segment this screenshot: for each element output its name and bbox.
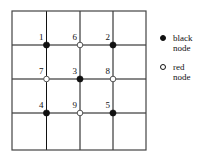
black-node-marker [77,76,83,82]
legend: black node red node [160,33,207,91]
legend-black-node-label-line1: black [173,33,207,43]
legend-item-red-node: red node [160,62,207,82]
node-label-7: 7 [39,67,44,76]
node-label-8: 8 [106,67,111,76]
node-label-1: 1 [39,33,44,42]
node-label-4: 4 [39,101,44,110]
node-label-9: 9 [73,101,78,110]
red-node-marker [77,110,83,116]
red-node-marker [77,42,83,48]
black-node-marker [43,110,49,116]
black-node-marker [110,110,116,116]
legend-item-black-node: black node [160,33,207,53]
black-node-marker [110,42,116,48]
red-node-marker [44,76,50,82]
black-node-marker [43,42,49,48]
red-node-marker [110,76,116,82]
red-node-marker-icon [160,64,166,70]
legend-red-node-label-line1: red [173,62,207,72]
node-label-3: 3 [73,67,78,76]
node-label-2: 2 [106,33,111,42]
lattice-figure: 162738495 black node red node [0,0,207,161]
node-label-6: 6 [73,33,78,42]
legend-red-node-label-line2: node [173,72,207,82]
black-node-marker-icon [160,35,166,41]
node-label-5: 5 [106,101,111,110]
legend-black-node-label-line2: node [173,43,207,53]
